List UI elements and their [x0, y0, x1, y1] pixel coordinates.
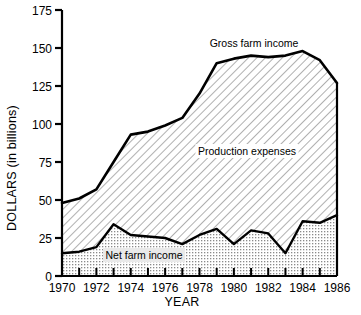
y-tick-label: 100 — [32, 118, 52, 132]
net-farm-income-label: Net farm income — [105, 249, 182, 261]
y-axis-tick-labels: 0255075100125150175 — [32, 4, 52, 284]
gross-farm-income-label: Gross farm income — [210, 37, 299, 49]
x-tick-label: 1970 — [49, 281, 76, 295]
x-axis-tick-labels: 197019721974197619781980198219841986 — [49, 281, 351, 295]
x-axis-title: YEAR — [165, 295, 200, 309]
x-tick-label: 1976 — [152, 281, 179, 295]
x-tick-label: 1980 — [221, 281, 248, 295]
y-tick-label: 175 — [32, 4, 52, 18]
y-axis-title: DOLLARS (in billions) — [5, 105, 19, 231]
y-tick-label: 50 — [39, 194, 53, 208]
y-tick-label: 150 — [32, 42, 52, 56]
x-tick-label: 1978 — [186, 281, 213, 295]
x-tick-label: 1982 — [255, 281, 282, 295]
chart-canvas: 0255075100125150175 19701972197419761978… — [0, 0, 361, 315]
x-tick-label: 1974 — [117, 281, 144, 295]
y-tick-label: 25 — [39, 232, 53, 246]
farm-income-chart: 0255075100125150175 19701972197419761978… — [0, 0, 361, 315]
x-tick-label: 1984 — [289, 281, 316, 295]
x-tick-label: 1986 — [324, 281, 351, 295]
y-axis: 0255075100125150175 — [32, 4, 62, 284]
plot-areas — [62, 51, 337, 276]
y-tick-label: 125 — [32, 80, 52, 94]
production-expenses-label: Production expenses — [198, 145, 296, 157]
y-tick-label: 75 — [39, 156, 53, 170]
x-tick-label: 1972 — [83, 281, 110, 295]
